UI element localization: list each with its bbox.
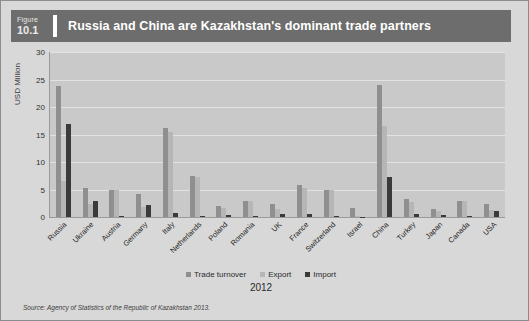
x-tick-label: Germany [129, 218, 156, 274]
bar [302, 188, 307, 217]
x-tick-label: Romania [237, 218, 264, 274]
source-note: Source: Agency of Statistics of the Repu… [23, 304, 210, 311]
x-tick-text: Turkey [395, 220, 417, 242]
bar [462, 201, 467, 217]
legend-label: Import [313, 270, 336, 279]
bar-group [237, 52, 264, 217]
legend-swatch-icon [186, 272, 191, 277]
x-axis-labels: RussiaUkraineAustriaGermanyItalyNetherla… [49, 218, 505, 274]
bar [441, 215, 446, 217]
bar [280, 214, 285, 217]
x-tick-label: Israel [344, 218, 371, 274]
legend-label: Trade turnover [194, 270, 246, 279]
y-axis-label: USD Million [13, 44, 22, 124]
x-tick-label: Russia [49, 218, 76, 274]
x-tick-label: Canada [451, 218, 478, 274]
figure-label: Figure [17, 16, 38, 24]
bar-group [318, 52, 345, 217]
x-tick-label: USA [478, 218, 505, 274]
legend-item: Import [305, 270, 336, 279]
bar [467, 216, 472, 217]
bar [248, 201, 253, 217]
y-tick-0: 0 [23, 213, 45, 222]
bar-group [211, 52, 238, 217]
bar [114, 190, 119, 217]
y-tick-15: 15 [23, 130, 45, 139]
bar-group [425, 52, 452, 217]
x-tick-text: Austria [100, 220, 123, 243]
bar [226, 215, 231, 217]
bar [494, 211, 499, 217]
bar-group [371, 52, 398, 217]
x-tick-text: France [287, 220, 310, 243]
x-tick-text: Japan [424, 220, 445, 241]
bar-group [104, 52, 131, 217]
bar-group [478, 52, 505, 217]
x-tick-text: Israel [345, 220, 364, 239]
x-axis-title: 2012 [11, 282, 511, 293]
bar-group [291, 52, 318, 217]
legend-item: Export [260, 270, 291, 279]
bar [173, 213, 178, 217]
y-tick-25: 25 [23, 75, 45, 84]
x-tick-label: Japan [425, 218, 452, 274]
bar-group [157, 52, 184, 217]
figure-panel: Figure 10.1 Russia and China are Kazakhs… [0, 0, 529, 321]
bar-group [130, 52, 157, 217]
bar [334, 216, 339, 217]
bar [387, 177, 392, 217]
bar-group [50, 52, 77, 217]
bar [146, 205, 151, 217]
bar [93, 201, 98, 217]
bar [414, 214, 419, 217]
y-tick-5: 5 [23, 185, 45, 194]
x-tick-text: UK [270, 220, 284, 234]
bar [253, 216, 258, 217]
bar-group [184, 52, 211, 217]
x-tick-label: Turkey [398, 218, 425, 274]
x-tick-text: USA [481, 220, 498, 237]
figure-number-block: Figure 10.1 [11, 10, 53, 42]
x-tick-text: China [370, 220, 390, 240]
legend-swatch-icon [260, 272, 265, 277]
x-tick-label: Ukraine [76, 218, 103, 274]
bar [307, 214, 312, 217]
y-tick-30: 30 [23, 48, 45, 57]
bar [329, 190, 334, 217]
bar [66, 124, 71, 218]
y-tick-10: 10 [23, 158, 45, 167]
x-tick-label: Netherlands [183, 218, 210, 274]
chart-legend: Trade turnoverExportImport [11, 270, 511, 279]
bar-group [264, 52, 291, 217]
x-tick-text: Italy [160, 220, 176, 236]
x-tick-text: Poland [207, 220, 230, 243]
legend-label: Export [268, 270, 291, 279]
x-tick-label: UK [264, 218, 291, 274]
chart-area: USD Million 051015202530 RussiaUkraineAu… [11, 46, 511, 291]
y-tick-20: 20 [23, 103, 45, 112]
x-tick-text: Russia [46, 220, 69, 243]
bar [168, 132, 173, 217]
bar-group [398, 52, 425, 217]
bar [195, 177, 200, 217]
bar [360, 217, 365, 218]
bar-group [344, 52, 371, 217]
bar-group [77, 52, 104, 217]
figure-title: Russia and China are Kazakhstan's domina… [57, 10, 511, 42]
bar [119, 216, 124, 217]
figure-header: Figure 10.1 Russia and China are Kazakhs… [11, 10, 511, 42]
x-tick-label: China [371, 218, 398, 274]
bar [200, 216, 205, 217]
figure-number: 10.1 [17, 24, 38, 36]
legend-item: Trade turnover [186, 270, 246, 279]
bar-group [451, 52, 478, 217]
plot-region [49, 52, 505, 218]
bar-groups [50, 52, 505, 217]
x-tick-label: Switzerland [317, 218, 344, 274]
legend-swatch-icon [305, 272, 310, 277]
